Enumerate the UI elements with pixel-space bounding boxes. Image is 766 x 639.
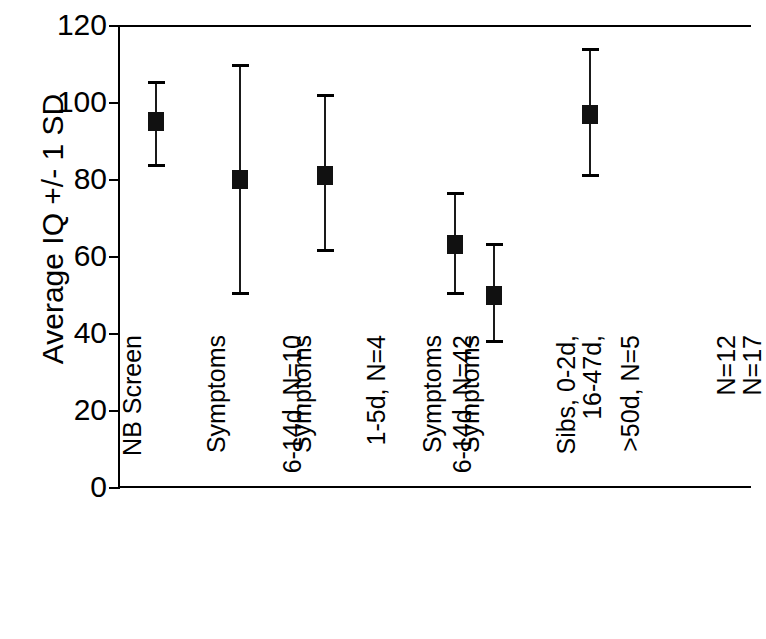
x-category-label-line: Sibs, 0-2d,	[552, 335, 580, 495]
y-tick-label: 0	[90, 470, 107, 504]
y-axis-title: Average IQ +/- 1 SD	[36, 9, 70, 449]
plot-top-border	[118, 25, 751, 27]
y-tick-label: 80	[74, 162, 107, 196]
mean-marker	[582, 105, 598, 124]
x-category-label-line: Symptoms	[456, 335, 484, 495]
error-bar-cap-lower	[317, 249, 334, 252]
y-tick-mark	[109, 179, 120, 181]
mean-marker	[232, 170, 248, 189]
y-tick-label: 100	[57, 85, 107, 119]
x-category-label-line: N=12	[712, 335, 740, 495]
y-tick-label: 120	[57, 8, 107, 42]
x-category-label: Sibs, 0-2d,N=12	[552, 495, 766, 523]
x-category-label-line: Symptoms	[418, 335, 446, 495]
error-bar-cap-lower	[148, 164, 165, 167]
mean-marker	[447, 235, 463, 254]
y-tick-mark	[109, 25, 120, 27]
y-tick-label: 60	[74, 239, 107, 273]
x-category-label-line: Symptoms	[288, 335, 316, 495]
error-bar-cap-upper	[232, 64, 249, 67]
y-tick-mark	[109, 256, 120, 258]
error-bar-cap-upper	[447, 192, 464, 195]
y-tick-label: 40	[74, 316, 107, 350]
error-bar-cap-lower	[232, 292, 249, 295]
error-bar-cap-lower	[582, 174, 599, 177]
error-bar-cap-upper	[582, 48, 599, 51]
mean-marker	[317, 166, 333, 185]
x-category-label-line: N=17	[738, 335, 766, 495]
x-category-label-line: NB Screen	[118, 335, 146, 495]
error-bar-cap-upper	[148, 81, 165, 84]
error-bar-cap-upper	[317, 94, 334, 97]
x-category-label-line: 16-47d,	[578, 335, 606, 495]
y-tick-mark	[109, 102, 120, 104]
x-category-label-line: 1-5d, N=4	[362, 335, 390, 495]
y-tick-label: 20	[74, 393, 107, 427]
error-bar-cap-upper	[486, 243, 503, 246]
error-bar-cap-lower	[486, 340, 503, 343]
x-category-label-line: Symptoms	[202, 335, 230, 495]
x-category-label-line: >50d, N=5	[616, 335, 644, 495]
mean-marker	[148, 112, 164, 131]
mean-marker	[486, 286, 502, 305]
error-bar-cap-lower	[447, 292, 464, 295]
